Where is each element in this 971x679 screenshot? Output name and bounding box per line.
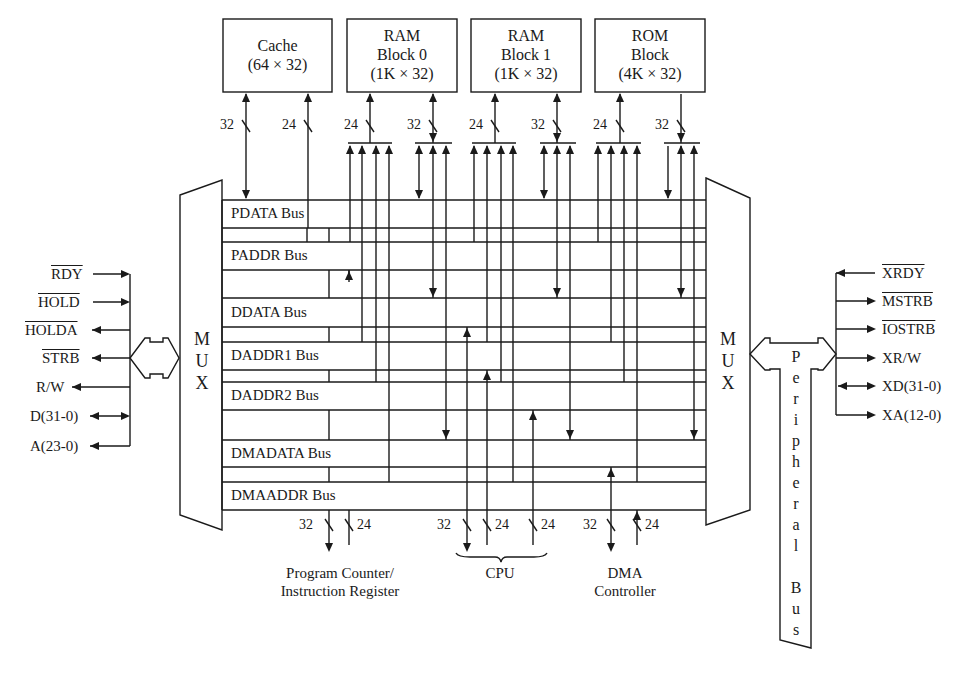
bus-label-paddr: PADDR Bus — [231, 247, 308, 264]
bus-label-pdata: PDATA Bus — [231, 205, 304, 222]
width-label: 24 — [645, 517, 659, 533]
signal-rdy: RDY — [51, 266, 83, 283]
bus-label-daddr1: DADDR1 Bus — [231, 347, 319, 364]
signal-xa: XA(12-0) — [882, 407, 941, 424]
left-double-arrow — [130, 338, 179, 378]
pc-ir-label: Program Counter/ Instruction Register — [255, 564, 425, 600]
signal-iostrb: IOSTRB — [882, 321, 935, 338]
letter: e — [786, 472, 806, 493]
letter-gap — [786, 556, 806, 577]
width-label: 24 — [344, 117, 358, 133]
width-label: 32 — [407, 117, 421, 133]
mux-letter: U — [718, 350, 738, 372]
letter: r — [786, 493, 806, 514]
letter: e — [786, 367, 806, 388]
signal-mstrb: MSTRB — [882, 293, 933, 310]
letter: i — [786, 409, 806, 430]
signal-xrdy: XRDY — [882, 265, 925, 282]
ram1-name2: Block 1 — [471, 45, 581, 64]
signal-hold: HOLD — [38, 294, 80, 311]
mux-letter: X — [192, 372, 212, 394]
bus-label-dmaaddr: DMAADDR Bus — [231, 487, 336, 504]
cpu-label: CPU — [470, 564, 530, 582]
peripheral-bus-label: P e r i p h e r a l B u s — [786, 346, 806, 640]
ram0-size: (1K × 32) — [347, 64, 457, 83]
mux-letter: M — [718, 328, 738, 350]
ram-block1-label: RAM Block 1 (1K × 32) — [471, 26, 581, 83]
bus-label-dmadata: DMADATA Bus — [231, 445, 331, 462]
width-label: 32 — [299, 517, 313, 533]
rom-block-label: ROM Block (4K × 32) — [595, 26, 705, 83]
dma-controller-label: DMA Controller — [580, 564, 670, 600]
cache-size: (64 × 32) — [223, 55, 332, 74]
rom-size: (4K × 32) — [595, 64, 705, 83]
signal-strb: STRB — [42, 350, 80, 367]
bus-label-ddata: DDATA Bus — [231, 304, 307, 321]
letter: a — [786, 514, 806, 535]
signal-rw: R/W — [36, 379, 64, 396]
letter: p — [786, 430, 806, 451]
pc-ir-line1: Program Counter/ — [255, 564, 425, 582]
width-label: 24 — [495, 517, 509, 533]
width-label: 32 — [437, 517, 451, 533]
letter: P — [786, 346, 806, 367]
cpu-text: CPU — [470, 564, 530, 582]
letter: l — [786, 535, 806, 556]
letter: s — [786, 619, 806, 640]
left-mux-label: M U X — [192, 328, 212, 394]
ram-block0-label: RAM Block 0 (1K × 32) — [347, 26, 457, 83]
signal-holda: HOLDA — [25, 322, 78, 339]
width-label: 32 — [655, 117, 669, 133]
mux-letter: U — [192, 350, 212, 372]
rom-name2: Block — [595, 45, 705, 64]
letter: h — [786, 451, 806, 472]
width-label: 32 — [583, 517, 597, 533]
cache-name: Cache — [223, 36, 332, 55]
signal-data: D(31-0) — [30, 408, 78, 425]
cpu-brace — [456, 553, 547, 562]
ram1-size: (1K × 32) — [471, 64, 581, 83]
rom-name: ROM — [595, 26, 705, 45]
width-label: 32 — [220, 117, 234, 133]
width-label: 24 — [469, 117, 483, 133]
signal-xd: XD(31-0) — [882, 378, 941, 395]
dma-line1: DMA — [580, 564, 670, 582]
signal-address: A(23-0) — [30, 438, 78, 455]
bus-label-daddr2: DADDR2 Bus — [231, 387, 319, 404]
letter: u — [786, 598, 806, 619]
ram0-name2: Block 0 — [347, 45, 457, 64]
width-label: 32 — [531, 117, 545, 133]
dma-line2: Controller — [580, 582, 670, 600]
ram1-name: RAM — [471, 26, 581, 45]
mux-letter: X — [718, 372, 738, 394]
letter: B — [786, 577, 806, 598]
signal-xrw: XR/W — [882, 350, 921, 367]
letter: r — [786, 388, 806, 409]
mux-letter: M — [192, 328, 212, 350]
width-label: 24 — [593, 117, 607, 133]
cache-label: Cache (64 × 32) — [223, 36, 332, 74]
width-label: 24 — [541, 517, 555, 533]
pc-ir-line2: Instruction Register — [255, 582, 425, 600]
ram0-name: RAM — [347, 26, 457, 45]
width-label: 24 — [357, 517, 371, 533]
right-mux-label: M U X — [718, 328, 738, 394]
width-label: 24 — [282, 117, 296, 133]
